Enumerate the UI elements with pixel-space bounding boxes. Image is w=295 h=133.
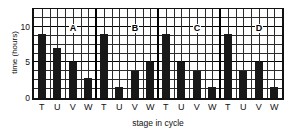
plot-area: ABCD: [32, 8, 284, 100]
x-tick-label: W: [270, 102, 279, 113]
x-tick-label: T: [39, 102, 45, 113]
bar: [131, 71, 139, 98]
bar: [177, 62, 185, 98]
gridline-vertical: [65, 9, 66, 98]
bar: [239, 71, 247, 98]
bar: [270, 87, 278, 98]
bar: [255, 62, 263, 98]
x-tick-label: W: [208, 102, 217, 113]
bar-chart: time (hours) 0 5 10 ABCD TUVWTUVWTUVWTUV…: [0, 0, 295, 133]
bar: [162, 34, 170, 98]
x-tick-label: V: [132, 102, 138, 113]
x-axis-title: stage in cycle: [32, 118, 284, 128]
gridline-vertical: [112, 9, 113, 98]
x-axis-tick-labels: TUVWTUVWTUVWTUVW: [32, 102, 284, 115]
x-tick-label: V: [194, 102, 200, 113]
y-axis-tick-labels: 0 5 10: [12, 0, 30, 133]
gridline-vertical-minor: [119, 9, 120, 98]
x-tick-label: U: [116, 102, 123, 113]
group-label: D: [255, 24, 264, 33]
group-label: A: [69, 24, 78, 33]
bar: [69, 62, 77, 98]
x-tick-label: T: [225, 102, 231, 113]
bar: [115, 87, 123, 98]
gridline-vertical: [205, 9, 206, 98]
group-separator: [95, 9, 97, 98]
x-tick-label: V: [70, 102, 76, 113]
x-tick-label: T: [101, 102, 107, 113]
bar: [224, 34, 232, 98]
bar: [193, 71, 201, 98]
bar: [100, 34, 108, 98]
x-tick-label: U: [178, 102, 185, 113]
gridline-vertical: [81, 9, 82, 98]
gridline-vertical: [143, 9, 144, 98]
bar: [53, 48, 61, 98]
gridline-vertical: [236, 9, 237, 98]
group-label: B: [131, 24, 140, 33]
gridline-vertical: [127, 9, 128, 98]
group-label: C: [193, 24, 202, 33]
gridline-vertical-minor: [274, 9, 275, 98]
gridline-vertical: [189, 9, 190, 98]
gridline-vertical: [267, 9, 268, 98]
group-separator: [157, 9, 159, 98]
x-tick-label: V: [256, 102, 262, 113]
y-tick-label: 10: [14, 23, 30, 32]
gridline-vertical: [174, 9, 175, 98]
bar: [208, 87, 216, 98]
gridline-vertical-minor: [212, 9, 213, 98]
x-tick-label: U: [54, 102, 61, 113]
x-tick-label: T: [163, 102, 169, 113]
y-tick-label: 0: [14, 94, 30, 103]
x-tick-label: W: [84, 102, 93, 113]
bar: [84, 78, 92, 98]
x-tick-label: W: [146, 102, 155, 113]
x-tick-label: U: [240, 102, 247, 113]
y-tick-label: 5: [14, 58, 30, 67]
group-separator: [219, 9, 221, 98]
gridline-vertical: [50, 9, 51, 98]
bar: [146, 62, 154, 98]
bar: [38, 34, 46, 98]
gridline-vertical: [251, 9, 252, 98]
